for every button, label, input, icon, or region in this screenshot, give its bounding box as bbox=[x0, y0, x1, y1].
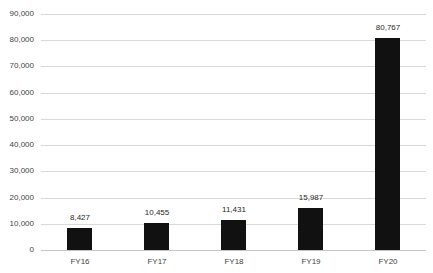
y-tick-label: 50,000 bbox=[0, 114, 34, 124]
x-tick-label: FY19 bbox=[281, 257, 341, 267]
y-tick-label: 60,000 bbox=[0, 88, 34, 98]
y-tick-label: 80,000 bbox=[0, 35, 34, 45]
x-axis-line bbox=[41, 250, 426, 251]
x-tick-label: FY16 bbox=[50, 257, 110, 267]
bar-fy17 bbox=[144, 223, 169, 250]
bar-value-label: 8,427 bbox=[50, 213, 110, 223]
gridline bbox=[41, 119, 426, 120]
bar-fy20 bbox=[375, 38, 400, 250]
bar-fy19 bbox=[298, 208, 323, 250]
gridline bbox=[41, 66, 426, 67]
gridline bbox=[41, 171, 426, 172]
gridline bbox=[41, 198, 426, 199]
y-tick-label: 0 bbox=[0, 245, 34, 255]
x-tick-label: FY20 bbox=[358, 257, 418, 267]
y-tick-label: 90,000 bbox=[0, 9, 34, 19]
bar-chart: 010,00020,00030,00040,00050,00060,00070,… bbox=[0, 0, 433, 273]
bar-value-label: 80,767 bbox=[358, 23, 418, 33]
y-tick-label: 40,000 bbox=[0, 140, 34, 150]
bar-value-label: 15,987 bbox=[281, 193, 341, 203]
gridline bbox=[41, 14, 426, 15]
bar-fy18 bbox=[221, 220, 246, 250]
y-tick-label: 70,000 bbox=[0, 61, 34, 71]
bar-fy16 bbox=[67, 228, 92, 250]
y-tick-label: 10,000 bbox=[0, 219, 34, 229]
bar-value-label: 11,431 bbox=[204, 205, 264, 215]
x-tick-label: FY17 bbox=[127, 257, 187, 267]
gridline bbox=[41, 40, 426, 41]
y-tick-label: 20,000 bbox=[0, 193, 34, 203]
gridline bbox=[41, 145, 426, 146]
y-tick-label: 30,000 bbox=[0, 166, 34, 176]
x-tick-label: FY18 bbox=[204, 257, 264, 267]
gridline bbox=[41, 93, 426, 94]
bar-value-label: 10,455 bbox=[127, 208, 187, 218]
